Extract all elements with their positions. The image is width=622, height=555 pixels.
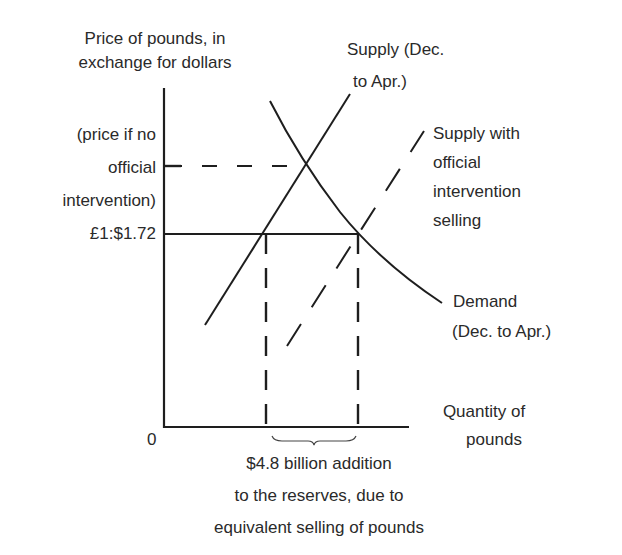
reserves-brace [272,436,356,445]
x-axis-title: Quantity of pounds [424,398,544,454]
supply-int-line1: Supply with [433,119,521,148]
x-axis-title-line1: Quantity of [424,398,544,426]
peg-price-label: £1:$1.72 [40,222,156,246]
supply-with-intervention-label: Supply with official intervention sellin… [433,119,521,235]
supply-int-line3: intervention [433,177,521,206]
supply-curve [205,94,350,325]
demand-label: Demand (Dec. to Apr.) [452,287,551,347]
supply-int-line4: selling [433,206,521,235]
reserves-line3: equivalent selling of pounds [156,512,482,544]
no-intervention-price-label: (price if no official intervention) [20,118,156,217]
y-axis-title-line2: exchange for dollars [52,51,258,75]
y-axis-title: Price of pounds, in exchange for dollars [52,27,258,75]
reserves-line2: to the reserves, due to [156,480,482,512]
supply-label-line1: Supply (Dec. [347,34,444,66]
no-intervention-line2: official [20,151,156,184]
no-intervention-line3: intervention) [20,184,156,217]
y-axis-title-line1: Price of pounds, in [52,27,258,51]
reserves-line1: $4.8 billion addition [156,448,482,480]
supply-int-line2: official [433,148,521,177]
no-intervention-line1: (price if no [20,118,156,151]
demand-curve [270,101,442,303]
reserves-annotation: $4.8 billion addition to the reserves, d… [156,448,482,544]
supply-label-line2: to Apr.) [347,66,444,98]
demand-label-line1: Demand [452,287,551,317]
supply-label: Supply (Dec. to Apr.) [347,34,444,98]
demand-label-line2: (Dec. to Apr.) [452,317,551,347]
